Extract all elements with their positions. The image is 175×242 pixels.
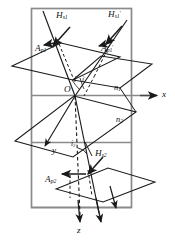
lower-transmission-plane bbox=[56, 168, 155, 202]
z-axis-arrow bbox=[78, 200, 80, 222]
label-angle-i: i bbox=[74, 76, 76, 83]
label-a-p2: Ap2 bbox=[45, 175, 56, 185]
label-h-s2: Hs2 bbox=[95, 149, 107, 159]
label-axis-x: x bbox=[162, 90, 166, 99]
label-axis-y: y bbox=[52, 146, 56, 155]
label-angle-i2: i2 bbox=[71, 140, 75, 148]
label-h-s1-prime: Hs1′ bbox=[108, 10, 121, 20]
h-s1-prime-vector bbox=[106, 26, 122, 44]
label-n1: n1 bbox=[114, 84, 121, 92]
label-a-p1-prime: Ap1′ bbox=[101, 44, 113, 54]
label-angle-i-prime: i′ bbox=[82, 76, 85, 83]
refraction-diagram-svg bbox=[0, 0, 175, 242]
label-a-p1: Ap1 bbox=[35, 44, 46, 54]
label-origin-o: O bbox=[64, 85, 71, 94]
figure-canvas: Hs1 Hs1′ Ap1 Ap1′ i i′ O n1 x n2 y i2 Hs… bbox=[0, 0, 175, 242]
label-axis-z: z bbox=[77, 226, 81, 235]
label-n2: n2 bbox=[116, 116, 123, 124]
label-h-s1: Hs1 bbox=[56, 11, 68, 21]
